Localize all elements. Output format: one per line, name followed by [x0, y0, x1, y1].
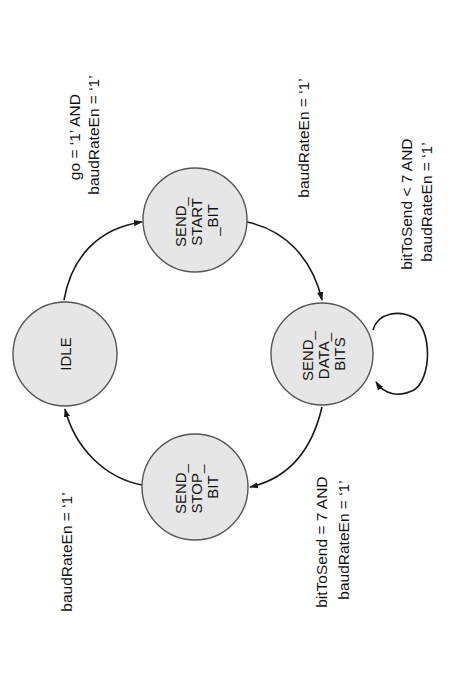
transition-label-line: baudRateEn = ‘1’ [335, 480, 352, 599]
transition-start-to-data [247, 222, 322, 300]
state-diagram: IDLE SEND_ START _BIT SEND_ DATA_ BITS S… [0, 0, 466, 695]
state-label-line: SEND_ [172, 196, 189, 247]
transition-data-self-loop [373, 314, 428, 395]
transition-label-line: baudRateEn = ‘1’ [418, 142, 435, 261]
transition-label-line: baudRateEn = ‘1’ [295, 78, 312, 197]
transition-arrow [247, 222, 322, 300]
self-loop-arrow [373, 314, 428, 395]
transition-label-stop-to-idle: baudRateEn = ‘1’ [58, 492, 75, 611]
state-label-line: START [188, 198, 205, 246]
state-label: IDLE [57, 337, 74, 370]
svg-text:IDLE: IDLE [57, 337, 74, 370]
state-label-line: _BIT [204, 204, 221, 237]
transition-arrow [250, 407, 322, 487]
transition-label-data-to-stop: bitToSend = 7 AND baudRateEn = ‘1’ [313, 472, 352, 608]
transition-label-line: baudRateEn = ‘1’ [58, 492, 75, 611]
transition-label-line: bitToSend < 7 AND [398, 138, 415, 269]
state-label-line: STOP_ [188, 464, 205, 514]
transition-stop-to-idle [65, 409, 142, 485]
state-label-line: SEND_ [299, 330, 316, 381]
transition-label-line: bitToSend = 7 AND [313, 476, 330, 607]
transition-label-start-to-data: baudRateEn = ‘1’ [295, 78, 312, 197]
state-send-start-bit: SEND_ START _BIT [143, 168, 247, 272]
transition-idle-to-start [64, 222, 142, 300]
transition-arrow [65, 409, 142, 485]
transition-label-line: go = ‘1’ AND [66, 94, 83, 180]
transition-label-idle-to-start: go = ‘1’ AND baudRateEn = ‘1’ [66, 75, 102, 194]
state-idle: IDLE [13, 302, 117, 406]
state-send-data-bits: SEND_ DATA_ BITS [271, 303, 373, 405]
state-label-line: DATA_ [315, 332, 332, 379]
transition-label-line: baudRateEn = ‘1’ [85, 75, 102, 194]
state-label-line: BITS [331, 337, 348, 370]
transition-data-to-stop [250, 407, 322, 487]
transition-label-data-self-loop: bitToSend < 7 AND baudRateEn = ‘1’ [398, 134, 435, 270]
transition-arrow [64, 222, 142, 300]
state-send-stop-bit: SEND_ STOP_ BIT [142, 434, 248, 540]
state-label-line: SEND_ [172, 463, 189, 514]
state-label-line: BIT [204, 475, 221, 498]
